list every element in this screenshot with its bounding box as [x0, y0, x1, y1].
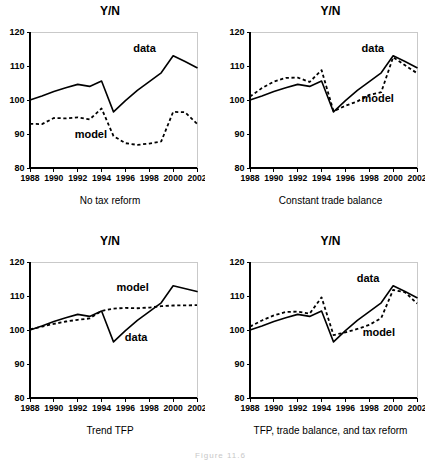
chart-panel-no-tax-reform: Y/N 809010011012019881990199219941996199… [0, 0, 220, 230]
x-tick-label: 1998 [360, 173, 379, 183]
figure-caption: Figure 11.6 [0, 451, 441, 460]
panel-grid: Y/N 809010011012019881990199219941996199… [0, 0, 441, 460]
panel-caption: Trend TFP [0, 425, 220, 436]
x-tick-label: 1998 [140, 403, 159, 413]
plot-area-tfp-trade-balance-tax-reform: 8090100110120198819901992199419961998200… [220, 252, 425, 428]
x-tick-label: 1990 [264, 173, 283, 183]
x-tick-label: 1994 [92, 173, 111, 183]
panel-caption: Constant trade balance [220, 195, 441, 206]
x-tick-label: 1990 [44, 173, 63, 183]
x-tick-label: 2002 [187, 173, 205, 183]
axis-lines [30, 32, 197, 168]
y-tick-label: 100 [229, 95, 244, 105]
y-tick-label: 110 [10, 61, 25, 71]
chart-panel-trend-tfp: Y/N 809010011012019881990199219941996199… [0, 230, 220, 460]
plot-area-constant-trade-balance: 8090100110120198819901992199419961998200… [220, 22, 425, 198]
y-tick-label: 80 [234, 163, 244, 173]
y-tick-label: 90 [14, 129, 24, 139]
x-tick-label: 1992 [68, 173, 87, 183]
y-tick-label: 120 [229, 257, 244, 267]
x-tick-label: 1988 [20, 173, 39, 183]
x-tick-label: 1988 [20, 403, 39, 413]
plot-frame [30, 262, 197, 398]
series-line-data [30, 56, 197, 112]
x-tick-label: 1990 [264, 403, 283, 413]
panel-title: Y/N [0, 4, 220, 18]
x-tick-label: 2000 [164, 173, 183, 183]
x-tick-label: 2000 [384, 173, 403, 183]
panel-title: Y/N [220, 234, 441, 248]
plot-svg: 8090100110120198819901992199419961998200… [0, 22, 205, 194]
panel-title: Y/N [220, 4, 441, 18]
x-tick-label: 1996 [116, 403, 135, 413]
x-tick-label: 1988 [240, 173, 259, 183]
x-tick-label: 1994 [312, 173, 331, 183]
series-line-model [30, 305, 197, 329]
x-tick-label: 1996 [336, 173, 355, 183]
panel-caption: TFP, trade balance, and tax reform [220, 425, 441, 436]
y-tick-label: 110 [230, 291, 245, 301]
plot-svg: 8090100110120198819901992199419961998200… [220, 22, 425, 194]
x-tick-label: 1994 [312, 403, 331, 413]
series-line-model [30, 109, 197, 145]
y-tick-label: 110 [10, 291, 25, 301]
y-tick-label: 90 [14, 359, 24, 369]
y-tick-label: 90 [234, 359, 244, 369]
axis-lines [30, 262, 197, 398]
x-tick-label: 1990 [44, 403, 63, 413]
chart-panel-tfp-trade-balance-tax-reform: Y/N 809010011012019881990199219941996199… [220, 230, 441, 460]
series-label-model: model [116, 281, 148, 293]
x-tick-label: 1998 [360, 403, 379, 413]
y-tick-label: 80 [14, 393, 24, 403]
y-tick-label: 80 [14, 163, 24, 173]
x-tick-label: 1996 [336, 403, 355, 413]
y-tick-label: 100 [9, 95, 24, 105]
series-line-data [30, 286, 197, 342]
x-tick-label: 2002 [407, 173, 425, 183]
x-tick-label: 1992 [288, 173, 307, 183]
x-tick-label: 1992 [288, 403, 307, 413]
y-tick-label: 100 [9, 325, 24, 335]
x-tick-label: 2002 [407, 403, 425, 413]
plot-area-no-tax-reform: 8090100110120198819901992199419961998200… [0, 22, 205, 198]
x-tick-label: 1992 [68, 403, 87, 413]
series-label-model: model [363, 326, 395, 338]
figure-container: Y/N 809010011012019881990199219941996199… [0, 0, 441, 460]
x-tick-label: 1996 [116, 173, 135, 183]
series-label-data: data [133, 42, 157, 54]
y-tick-label: 110 [230, 61, 245, 71]
x-tick-label: 2002 [187, 403, 205, 413]
panel-title: Y/N [0, 234, 220, 248]
plot-area-trend-tfp: 8090100110120198819901992199419961998200… [0, 252, 205, 428]
y-tick-label: 120 [229, 27, 244, 37]
series-label-data: data [357, 272, 381, 284]
series-label-data: data [362, 42, 386, 54]
plot-frame [30, 32, 197, 168]
x-tick-label: 2000 [164, 403, 183, 413]
x-tick-label: 1994 [92, 403, 111, 413]
chart-panel-constant-trade-balance: Y/N 809010011012019881990199219941996199… [220, 0, 441, 230]
series-label-model: model [75, 128, 107, 140]
y-tick-label: 120 [9, 27, 24, 37]
y-tick-label: 120 [9, 257, 24, 267]
plot-svg: 8090100110120198819901992199419961998200… [220, 252, 425, 424]
plot-svg: 8090100110120198819901992199419961998200… [0, 252, 205, 424]
y-tick-label: 80 [234, 393, 244, 403]
x-tick-label: 2000 [384, 403, 403, 413]
y-tick-label: 100 [229, 325, 244, 335]
series-label-data: data [125, 331, 149, 343]
panel-caption: No tax reform [0, 195, 220, 206]
x-tick-label: 1998 [140, 173, 159, 183]
series-label-model: model [361, 92, 393, 104]
y-tick-label: 90 [234, 129, 244, 139]
x-tick-label: 1988 [240, 403, 259, 413]
